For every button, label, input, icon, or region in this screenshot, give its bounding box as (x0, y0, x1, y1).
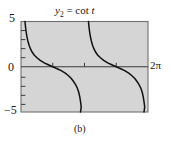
title-subscript: 2 (60, 10, 64, 19)
figure-caption: (b) (74, 124, 86, 134)
y-axis-min-label: −5 (4, 104, 17, 116)
title-function: cot (75, 4, 88, 16)
cotangent-graph-figure: y2 = cot t 5 0 −5 2π (b) (0, 0, 171, 145)
y-axis-max-label: 5 (9, 12, 15, 24)
title-argument: t (92, 4, 95, 16)
plot-title: y2 = cot t (55, 5, 95, 19)
title-equals: = (66, 4, 72, 16)
y-axis-zero-label: 0 (8, 61, 14, 73)
x-axis-max-label: 2π (150, 60, 161, 71)
